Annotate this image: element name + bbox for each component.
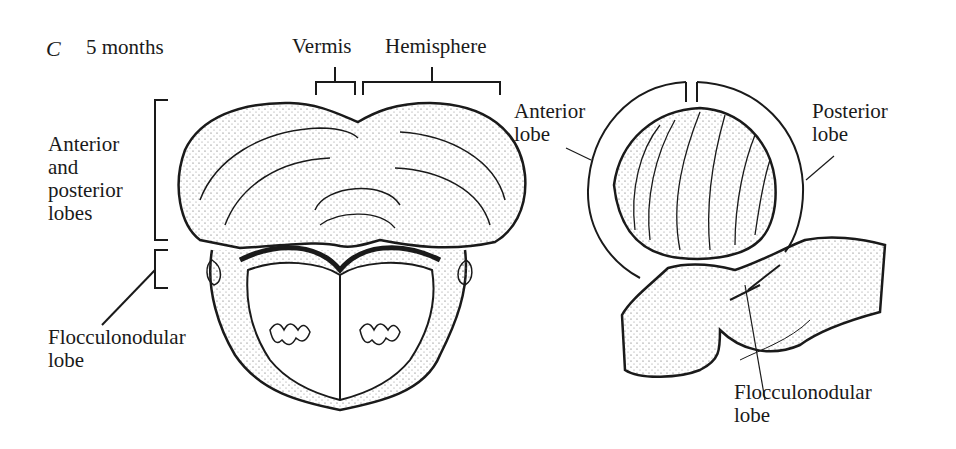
- label-posterior-lobe: Posterior lobe: [812, 100, 888, 146]
- panel-title: 5 months: [86, 36, 164, 59]
- label-anterior-lobe: Anterior lobe: [514, 100, 585, 146]
- label-flocculonodular-left: Flocculonodular lobe: [48, 326, 186, 372]
- label-anterior-posterior-lobes: Anterior and posterior lobes: [48, 133, 123, 225]
- label-flocculonodular-right: Flocculonodular lobe: [734, 381, 872, 427]
- cerebellum-lateral-view: [614, 108, 885, 400]
- vermis-bracket: [316, 67, 355, 95]
- label-hemisphere: Hemisphere: [385, 35, 486, 58]
- cerebellum-posterior-view: [179, 103, 526, 410]
- hemisphere-bracket: [363, 67, 500, 95]
- anterior-posterior-bracket: [155, 100, 168, 240]
- panel-letter: C: [46, 36, 61, 62]
- label-vermis: Vermis: [292, 35, 352, 58]
- flocculonodular-bracket: [102, 250, 168, 325]
